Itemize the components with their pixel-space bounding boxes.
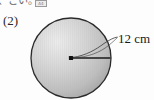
radius-dimension-label: 12 cm: [118, 31, 150, 46]
figure-screenshot: 、こい。 A4 (2): [0, 0, 154, 100]
circle-diagram: [0, 0, 154, 100]
circle-diagram-svg: [0, 0, 154, 100]
center-point-dot: [69, 56, 73, 60]
